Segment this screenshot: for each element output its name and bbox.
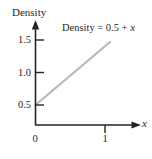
x-axis-arrow-icon [132, 121, 142, 128]
density-chart: Density Density = 0.5 + x 1.5 1.0 0.5 0 … [0, 0, 152, 159]
y-axis-title: Density [12, 7, 46, 18]
annotation-text-plain: Density = 0.5 + [62, 22, 130, 33]
density-line [36, 42, 111, 105]
y-tick-label-0.5: 0.5 [9, 100, 31, 111]
density-equation-annotation: Density = 0.5 + x [62, 23, 135, 34]
annotation-variable-x: x [130, 22, 135, 33]
x-axis-title: x [142, 118, 147, 129]
y-tick-label-1.5: 1.5 [9, 35, 31, 46]
y-axis-arrow-icon [32, 20, 39, 30]
x-tick-label-0: 0 [28, 134, 42, 145]
y-tick-label-1.0: 1.0 [9, 68, 31, 79]
x-tick-label-1: 1 [98, 134, 112, 145]
